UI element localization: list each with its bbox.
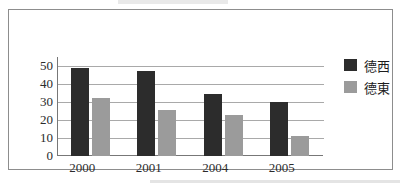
dark-square-icon	[344, 59, 357, 71]
bar-2001-west	[137, 71, 155, 156]
y-tick-label: 40	[27, 77, 53, 90]
bar-2004-east	[225, 115, 243, 156]
x-tick-label: 2005	[252, 161, 312, 174]
legend-label-west: 德西	[364, 56, 390, 75]
chart-screenshot: 50403020100 2000200120042005 德西 德東	[0, 0, 403, 186]
x-tick-label: 2004	[185, 161, 245, 174]
legend-item-west: 德西	[344, 54, 400, 76]
scan-artifact-top	[118, 0, 228, 4]
y-tick-label: 10	[27, 131, 53, 144]
bar-2000-west	[71, 68, 89, 156]
bar-2000-east	[92, 98, 110, 156]
x-tick-label: 2000	[52, 161, 112, 174]
legend-label-east: 德東	[364, 78, 390, 97]
scan-artifact-bottom	[150, 180, 400, 183]
y-tick-label: 0	[27, 149, 53, 162]
y-axis-tick-labels: 50403020100	[21, 57, 53, 156]
chart-legend: 德西 德東	[344, 54, 400, 98]
bar-2005-west	[270, 102, 288, 156]
legend-item-east: 德東	[344, 76, 400, 98]
bar-2004-west	[204, 94, 222, 156]
y-tick-label: 50	[27, 59, 53, 72]
bar-2001-east	[158, 110, 176, 156]
figure-frame: 50403020100 2000200120042005 德西 德東	[8, 9, 393, 170]
bars-layer	[57, 57, 323, 156]
gray-square-icon	[344, 81, 357, 93]
bar-2005-east	[291, 136, 309, 156]
x-tick-label: 2001	[119, 161, 179, 174]
y-tick-label: 30	[27, 95, 53, 108]
y-tick-label: 20	[27, 113, 53, 126]
